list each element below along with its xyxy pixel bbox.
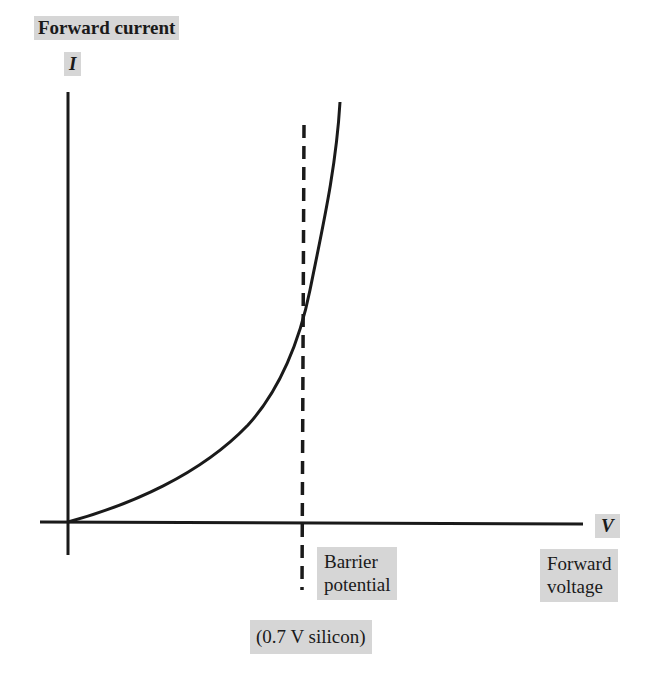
barrier-potential-dashed-line xyxy=(302,125,304,590)
barrier-label-line1: Barrier xyxy=(324,550,390,573)
x-axis-symbol: V xyxy=(595,514,620,538)
y-axis-title: Forward current xyxy=(34,16,179,40)
x-axis-title: Forward voltage xyxy=(540,549,618,602)
x-axis-title-line2: voltage xyxy=(547,575,611,598)
x-axis-title-line1: Forward xyxy=(547,552,611,575)
barrier-value-label: (0.7 V silicon) xyxy=(250,620,372,654)
x-axis xyxy=(40,522,583,524)
barrier-potential-label: Barrier potential xyxy=(317,547,397,600)
iv-curve xyxy=(68,102,340,522)
y-axis-symbol: I xyxy=(64,52,81,76)
barrier-label-line2: potential xyxy=(324,573,390,596)
